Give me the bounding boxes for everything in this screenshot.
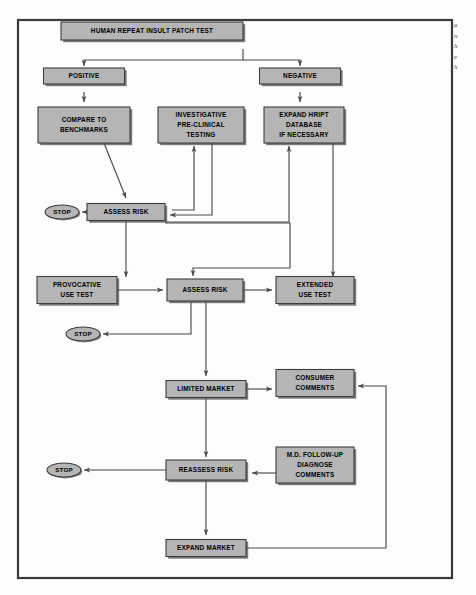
node-compare: COMPARE TOBENCHMARKS [38, 107, 132, 145]
flowchart-canvas: HUMAN REPEAT INSULT PATCH TESTPOSITIVENE… [0, 0, 476, 595]
node-label: LIMITED MARKET [177, 385, 234, 392]
node-investigative: INVESTIGATIVEPRE-CLINICALTESTING [158, 107, 246, 145]
margin-note-line: h [454, 41, 476, 52]
node-extended: EXTENDEDUSE TEST [276, 277, 356, 306]
node-label: ASSESS RISK [182, 286, 227, 293]
edge-investigative-to-assess1 [170, 143, 212, 215]
node-stop3: STOP [47, 463, 82, 478]
edge-assess1-to-expand-hript [165, 146, 289, 222]
node-expand-market: EXPAND MARKET [166, 540, 248, 559]
node-expand-hript: EXPAND HRIPTDATABASEIF NECESSARY [264, 107, 346, 145]
edge-compare-to-assess1 [104, 143, 126, 198]
node-label: EXPAND MARKET [177, 544, 235, 551]
node-positive: POSITIVE [44, 68, 127, 86]
node-label: POSITIVE [68, 72, 100, 79]
node-provocative: PROVOCATIVEUSE TEST [37, 277, 119, 306]
node-hript: HUMAN REPEAT INSULT PATCH TEST [61, 22, 245, 42]
edge-hript-to-positive [84, 49, 243, 66]
margin-note-line: n [454, 31, 476, 42]
node-assess1: ASSESS RISK [87, 204, 167, 223]
node-reassess: REASSESS RISK [166, 460, 248, 482]
node-consumer: CONSUMERCOMMENTS [276, 370, 356, 399]
margin-note-line: e [454, 52, 476, 63]
node-md: M.D. FOLLOW-UPDIAGNOSECOMMENTS [276, 447, 356, 485]
node-label: STOP [53, 208, 71, 215]
node-label: HUMAN REPEAT INSULT PATCH TEST [91, 27, 213, 34]
node-negative: NEGATIVE [260, 68, 343, 86]
node-limited: LIMITED MARKET [166, 381, 248, 400]
node-stop1: STOP [45, 205, 80, 220]
node-label: EXPAND HRIPTDATABASEIF NECESSARY [279, 110, 329, 138]
node-label: NEGATIVE [283, 72, 317, 79]
figure-page: HUMAN REPEAT INSULT PATCH TESTPOSITIVENE… [0, 0, 476, 595]
node-stop2: STOP [66, 327, 101, 342]
edge-assess1-to-assess2 [165, 223, 290, 276]
margin-note-line: h [454, 62, 476, 73]
edge-hript-to-negative [243, 60, 300, 66]
node-layer: HUMAN REPEAT INSULT PATCH TESTPOSITIVENE… [37, 22, 356, 559]
edge-assess1-to-investigative [172, 146, 194, 210]
margin-note: anheh [454, 20, 476, 73]
node-label: STOP [74, 330, 92, 337]
edge-assess2-to-stop2 [103, 301, 191, 334]
margin-note-line: a [454, 20, 476, 31]
node-label: STOP [55, 466, 73, 473]
node-assess2: ASSESS RISK [167, 279, 245, 303]
node-label: REASSESS RISK [179, 466, 234, 473]
node-label: ASSESS RISK [103, 208, 148, 215]
